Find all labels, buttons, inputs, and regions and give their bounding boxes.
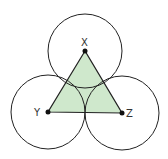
triangle-circles-diagram: X Y Z xyxy=(0,0,168,159)
point-z xyxy=(120,111,125,116)
point-y xyxy=(46,110,51,115)
label-y: Y xyxy=(33,107,41,118)
point-x xyxy=(83,49,88,54)
shaded-triangle xyxy=(48,51,122,113)
diagram-canvas: X Y Z xyxy=(0,0,168,159)
label-z: Z xyxy=(126,108,133,119)
label-x: X xyxy=(81,37,88,48)
